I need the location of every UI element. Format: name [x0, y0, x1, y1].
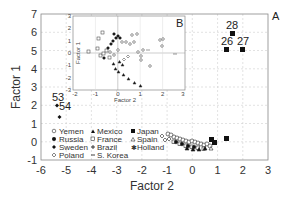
y-axis-label: Factor 1 — [9, 65, 23, 109]
svg-text:2: 2 — [68, 25, 72, 31]
svg-text:-2: -2 — [137, 164, 147, 176]
svg-text:3: 3 — [181, 91, 185, 97]
y-axis-ticks: 7 6 5 4 3 2 1 0 -1 — [27, 8, 37, 166]
scatter-chart: 7 6 5 4 3 2 1 0 -1 -6 -5 -4 -3 -2 -1 0 1… — [0, 0, 291, 199]
x-axis-ticks: -6 -5 -4 -3 -2 -1 0 1 2 3 — [36, 164, 271, 176]
svg-text:-3: -3 — [112, 164, 122, 176]
svg-text:6: 6 — [31, 26, 37, 38]
svg-text:54: 54 — [59, 100, 71, 112]
japan-cluster — [209, 136, 229, 145]
svg-text:Holland: Holland — [137, 143, 164, 152]
svg-text:1: 1 — [215, 164, 221, 176]
svg-text:S. Korea: S. Korea — [97, 151, 129, 160]
svg-text:2: 2 — [31, 99, 37, 111]
svg-text:-5: -5 — [61, 164, 71, 176]
svg-text:-6: -6 — [36, 164, 46, 176]
svg-text:5: 5 — [31, 45, 37, 57]
panel-label-b: B — [176, 17, 183, 29]
svg-text:-1: -1 — [66, 62, 72, 68]
legend: Yemen Russia Sweden Poland Mexico France… — [52, 127, 164, 160]
inset-x-label: Factor 2 — [114, 97, 137, 103]
svg-text:28: 28 — [226, 19, 238, 31]
svg-text:-4: -4 — [87, 164, 97, 176]
svg-text:1: 1 — [68, 38, 72, 44]
svg-text:1: 1 — [31, 118, 37, 130]
svg-text:-3: -3 — [66, 87, 72, 93]
svg-text:-1: -1 — [93, 91, 99, 97]
svg-text:2: 2 — [240, 164, 246, 176]
svg-text:2: 2 — [161, 91, 165, 97]
svg-text:7: 7 — [31, 8, 37, 20]
svg-text:0: 0 — [189, 164, 195, 176]
svg-text:3: 3 — [31, 81, 37, 93]
x-axis-label: Factor 2 — [130, 179, 174, 193]
inset-y-label: Factor 1 — [75, 41, 81, 64]
svg-text:0: 0 — [68, 50, 72, 56]
svg-text:27: 27 — [237, 35, 249, 47]
svg-text:0: 0 — [31, 136, 37, 148]
inset-y-ticks: 3 2 1 0 -1 -2 -3 — [66, 13, 72, 93]
svg-text:26: 26 — [221, 35, 233, 47]
svg-text:-2: -2 — [66, 75, 72, 81]
panel-label-a: A — [272, 10, 280, 22]
svg-text:3: 3 — [265, 164, 271, 176]
svg-text:4: 4 — [31, 63, 37, 75]
svg-text:-1: -1 — [162, 164, 172, 176]
svg-text:-2: -2 — [72, 91, 78, 97]
svg-text:Poland: Poland — [59, 151, 84, 160]
